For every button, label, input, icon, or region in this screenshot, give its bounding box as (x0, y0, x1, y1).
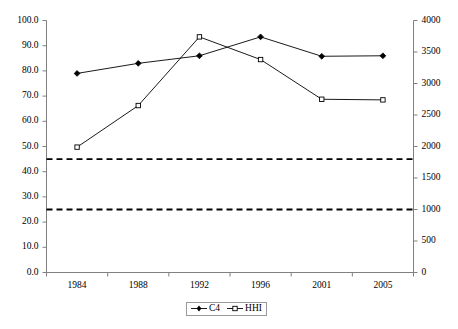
left-tick-label: 100.0 (0, 16, 39, 26)
right-tick-label: 4000 (422, 16, 441, 26)
left-tick-label: 60.0 (0, 116, 39, 126)
right-tick-label: 2500 (422, 110, 441, 120)
chart-legend: C4 HHI (186, 302, 267, 316)
left-tick-label: 20.0 (0, 217, 39, 227)
legend-marker-hhi (227, 304, 243, 313)
right-tick-label: 2000 (422, 142, 441, 152)
series-markers-group (74, 34, 386, 149)
x-tick-label: 1988 (108, 281, 168, 291)
x-tick-label: 1992 (169, 281, 229, 291)
right-tick-label: 1500 (422, 173, 441, 183)
chart-container: 0.010.020.030.040.050.060.070.080.090.01… (0, 0, 458, 329)
x-tick-label: 1996 (231, 281, 291, 291)
legend-marker-c4 (191, 304, 207, 313)
right-axis-ticks (414, 21, 418, 273)
x-tick-label: 2001 (292, 281, 352, 291)
left-tick-label: 40.0 (0, 167, 39, 177)
left-tick-label: 0.0 (0, 268, 39, 278)
legend-label-hhi: HHI (245, 304, 262, 314)
legend-entry-c4: C4 (191, 304, 220, 314)
right-tick-label: 1000 (422, 205, 441, 215)
left-tick-label: 90.0 (0, 41, 39, 51)
legend-entry-hhi: HHI (227, 304, 262, 314)
series-lines-group (77, 37, 383, 147)
right-tick-label: 3500 (422, 47, 441, 57)
axes-group (47, 21, 414, 273)
legend-label-c4: C4 (209, 304, 220, 314)
reference-lines-group (47, 159, 414, 209)
x-tick-label: 2005 (353, 281, 413, 291)
left-axis-ticks (43, 21, 47, 273)
left-tick-label: 30.0 (0, 192, 39, 202)
x-tick-label: 1984 (47, 281, 107, 291)
right-tick-label: 500 (422, 236, 436, 246)
left-tick-label: 10.0 (0, 242, 39, 252)
left-tick-label: 70.0 (0, 91, 39, 101)
right-tick-label: 3000 (422, 79, 441, 89)
right-tick-label: 0 (422, 268, 427, 278)
left-tick-label: 50.0 (0, 142, 39, 152)
left-tick-label: 80.0 (0, 66, 39, 76)
bottom-axis-ticks (47, 273, 414, 277)
